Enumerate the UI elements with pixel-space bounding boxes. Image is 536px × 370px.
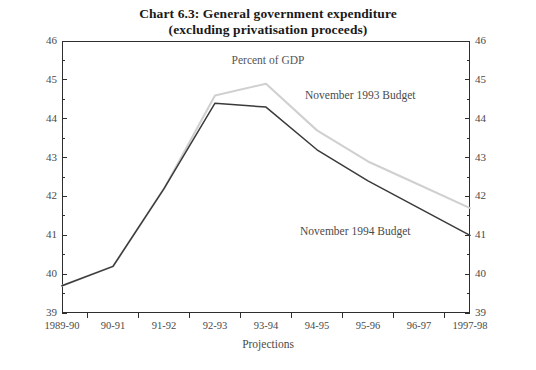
- y-axis-label-right-40: 40: [475, 268, 515, 279]
- projections-label: Projections: [0, 338, 536, 350]
- title-line-1: Chart 6.3: General government expenditur…: [0, 6, 536, 22]
- page-title: Chart 6.3: General government expenditur…: [0, 6, 536, 37]
- y-axis-label-left-43: 43: [17, 152, 57, 163]
- y-axis-label-right-39: 39: [475, 307, 515, 318]
- y-axis-label-left-39: 39: [17, 307, 57, 318]
- series-label-november-1993-budget: November 1993 Budget: [305, 89, 416, 101]
- y-axis-label-right-43: 43: [475, 152, 515, 163]
- y-axis-label-left-45: 45: [17, 74, 57, 85]
- chart-page: Chart 6.3: General government expenditur…: [0, 0, 536, 370]
- x-axis-label-1997-98: 1997-98: [440, 320, 500, 331]
- title-line-2: (excluding privatisation proceeds): [0, 22, 536, 38]
- x-tick-0: [87, 313, 88, 318]
- y-axis-label-right-46: 46: [475, 35, 515, 46]
- series-label-november-1994-budget: November 1994 Budget: [300, 225, 411, 237]
- x-tick-6: [393, 313, 394, 318]
- x-tick-2: [189, 313, 190, 318]
- y-axis-label-left-42: 42: [17, 190, 57, 201]
- x-tick-3: [240, 313, 241, 318]
- y-axis-label-right-44: 44: [475, 113, 515, 124]
- x-tick-5: [342, 313, 343, 318]
- y-axis-label-left-44: 44: [17, 113, 57, 124]
- y-axis-label-right-41: 41: [475, 229, 515, 240]
- x-tick-4: [291, 313, 292, 318]
- y-axis-label-left-41: 41: [17, 229, 57, 240]
- y-axis-label-right-42: 42: [475, 190, 515, 201]
- y-axis-label-left-40: 40: [17, 268, 57, 279]
- series-line-november-1993-budget: [62, 84, 470, 286]
- series-line-november-1994-budget: [62, 103, 470, 286]
- plot-area: [62, 41, 470, 313]
- x-tick-7: [444, 313, 445, 318]
- series-layer: [62, 41, 470, 313]
- y-axis-label-left-46: 46: [17, 35, 57, 46]
- y-axis-label-right-45: 45: [475, 74, 515, 85]
- x-tick-1: [138, 313, 139, 318]
